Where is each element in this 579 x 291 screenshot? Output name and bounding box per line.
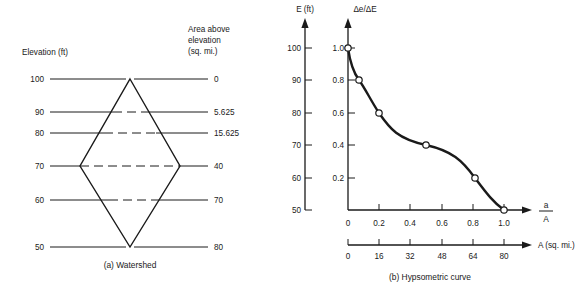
area-label-90: 5.625 (214, 108, 235, 117)
e-tick-label-90: 90 (292, 76, 302, 85)
area-label-70: 40 (214, 162, 224, 171)
panel-b-caption: (b) Hypsometric curve (389, 272, 471, 282)
area-label-80: 15.625 (214, 129, 239, 138)
area-label-50: 80 (214, 243, 224, 252)
area-tick-label-48: 48 (437, 252, 447, 261)
watershed-row-70: 70 40 (35, 162, 224, 171)
y-tick-label-0.4: 0.4 (333, 141, 345, 150)
data-point-marker (472, 175, 478, 181)
panel-b-hypsometric: E (ft) 100 90 80 70 60 50 Δe/ΔE (287, 5, 575, 282)
data-point-marker (345, 45, 351, 51)
area-axis-label: A (sq. mi.) (538, 241, 575, 250)
data-point-marker (423, 142, 429, 148)
y-axis-arrow-icon (344, 18, 351, 28)
e-axis-label: E (ft) (296, 5, 314, 14)
x-axis-arrow-icon (522, 206, 532, 213)
watershed-row-100: 100 0 (30, 75, 219, 84)
area-tick-label-0: 0 (346, 252, 351, 261)
area-header-line-2: elevation (188, 36, 221, 45)
elevation-label-80: 80 (35, 129, 45, 138)
area-axis-group: 0 16 32 48 64 80 A (sq. mi.) (346, 239, 575, 261)
x-axis-label-denominator: A (543, 214, 549, 224)
figure-container: Elevation (ft) Area above elevation (sq.… (0, 0, 579, 291)
watershed-boundary-polygon (80, 79, 180, 247)
data-point-marker (376, 110, 382, 116)
panel-a-caption: (a) Watershed (104, 260, 157, 270)
elevation-header: Elevation (ft) (22, 48, 68, 57)
x-tick-label-0: 0 (346, 219, 351, 228)
y-tick-label-1.0: 1.0 (333, 44, 345, 53)
area-axis-arrow-icon (522, 241, 532, 248)
x-tick-label-0.2: 0.2 (373, 219, 385, 228)
y-tick-label-0.2: 0.2 (333, 174, 345, 183)
hypsometric-curve-line (348, 48, 504, 210)
plot-axes-group: Δe/ΔE 1.0 0.8 0.6 0.4 0.2 0 0.2 0.4 0. (333, 5, 553, 228)
e-axis-group: E (ft) 100 90 80 70 60 50 (287, 5, 314, 215)
watershed-row-60: 60 70 (35, 196, 224, 205)
area-header-line-3: (sq. mi.) (188, 47, 218, 56)
elevation-label-90: 90 (35, 108, 45, 117)
area-label-100: 0 (214, 75, 219, 84)
x-axis-label-numerator: a (544, 200, 549, 210)
watershed-row-80: 80 15.625 (35, 129, 240, 138)
data-point-marker (501, 207, 507, 213)
x-tick-label-0.6: 0.6 (436, 219, 448, 228)
area-tick-label-80: 80 (499, 252, 509, 261)
area-label-60: 70 (214, 196, 224, 205)
area-tick-label-16: 16 (374, 252, 384, 261)
panel-a-watershed: Elevation (ft) Area above elevation (sq.… (22, 25, 239, 270)
y-axis-label: Δe/ΔE (353, 5, 377, 14)
e-tick-label-70: 70 (292, 141, 302, 150)
watershed-row-90: 90 5.625 (35, 108, 235, 117)
e-tick-label-100: 100 (287, 44, 301, 53)
elevation-label-50: 50 (35, 243, 45, 252)
e-tick-label-60: 60 (292, 174, 302, 183)
area-tick-label-32: 32 (405, 252, 415, 261)
hypsometric-curve-group (345, 45, 507, 213)
elevation-label-70: 70 (35, 162, 45, 171)
x-tick-label-0.4: 0.4 (404, 219, 416, 228)
area-tick-label-64: 64 (468, 252, 478, 261)
area-header-line-1: Area above (188, 25, 230, 34)
elevation-label-60: 60 (35, 196, 45, 205)
x-axis-fraction-label: a A (539, 200, 553, 224)
e-axis-arrow-icon (301, 18, 308, 28)
elevation-label-100: 100 (30, 75, 44, 84)
x-tick-label-1.0: 1.0 (498, 219, 510, 228)
e-tick-label-50: 50 (292, 206, 302, 215)
y-tick-label-0.8: 0.8 (333, 76, 345, 85)
y-tick-label-0.6: 0.6 (333, 109, 345, 118)
e-tick-label-80: 80 (292, 109, 302, 118)
watershed-row-50: 50 80 (35, 243, 224, 252)
x-tick-label-0.8: 0.8 (467, 219, 479, 228)
data-point-marker (356, 77, 362, 83)
